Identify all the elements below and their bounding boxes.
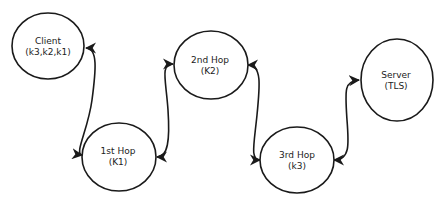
node-hop1-title: 1st Hop xyxy=(101,146,136,156)
node-hop3: 3rd Hop (k3) xyxy=(260,127,334,193)
node-hop3-subtitle: (k3) xyxy=(288,161,306,171)
edge-hop3-server xyxy=(334,80,359,160)
node-hop2-subtitle: (K2) xyxy=(201,66,220,76)
node-client-subtitle: (k3,k2,k1) xyxy=(25,47,71,57)
node-server-subtitle: (TLS) xyxy=(384,81,407,91)
node-server: Server (TLS) xyxy=(361,39,433,121)
node-server-title: Server xyxy=(381,70,411,80)
node-client: Client (k3,k2,k1) xyxy=(12,13,84,79)
node-hop3-title: 3rd Hop xyxy=(279,150,315,160)
edge-hop1-hop2 xyxy=(157,64,173,157)
node-client-title: Client xyxy=(35,36,62,46)
node-hop1: 1st Hop (K1) xyxy=(82,123,156,191)
edge-hop2-hop3 xyxy=(248,65,260,160)
node-hop1-subtitle: (K1) xyxy=(109,157,128,167)
diagram-canvas: Client (k3,k2,k1) 1st Hop (K1) 2nd Hop (… xyxy=(0,0,442,203)
node-hop2: 2nd Hop (K2) xyxy=(174,31,248,99)
node-hop2-title: 2nd Hop xyxy=(191,55,229,65)
